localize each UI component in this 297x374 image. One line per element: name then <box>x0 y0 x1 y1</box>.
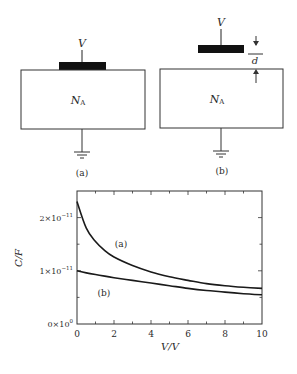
x-tick-label: 6 <box>185 329 191 339</box>
x-tick-label: 0 <box>74 329 80 339</box>
plot-frame <box>77 191 262 324</box>
voltage-label-b: V <box>217 16 226 29</box>
voltage-label-a: V <box>78 37 87 50</box>
cv-chart: 0246810 0×1001×10−112×10−11 (a) (b) V/V … <box>13 191 268 352</box>
y-tick-label: 2×10−11 <box>39 212 73 223</box>
axis-ticks <box>77 191 262 324</box>
ground-icon <box>74 152 90 158</box>
substrate-label-b: NA <box>209 93 226 106</box>
y-axis-label: C/F <box>13 248 24 267</box>
y-tick-label: 0×100 <box>48 318 74 329</box>
diagram-a: V NA (a) <box>21 37 145 178</box>
gap-label: d <box>252 55 258 66</box>
x-tick-label: 4 <box>148 329 154 339</box>
y-tick-label: 1×10−11 <box>39 265 73 276</box>
y-tick-labels: 0×1001×10−112×10−11 <box>39 212 73 329</box>
x-tick-label: 2 <box>111 329 117 339</box>
caption-a: (a) <box>76 168 88 178</box>
x-tick-label: 10 <box>256 329 268 339</box>
ground-icon <box>213 151 229 157</box>
gate-electrode-b <box>198 45 244 53</box>
x-axis-label: V/V <box>161 341 181 352</box>
diagram-b: V d NA (b) <box>160 16 283 176</box>
substrate-label-a: NA <box>70 94 87 107</box>
gate-electrode-a <box>59 62 106 70</box>
series-b-label: (b) <box>98 288 111 298</box>
x-tick-label: 8 <box>222 329 228 339</box>
x-tick-labels: 0246810 <box>74 329 268 339</box>
series-a-label: (a) <box>115 239 127 249</box>
figure-canvas: V NA (a) V d NA <box>0 0 297 374</box>
caption-b: (b) <box>216 166 229 176</box>
